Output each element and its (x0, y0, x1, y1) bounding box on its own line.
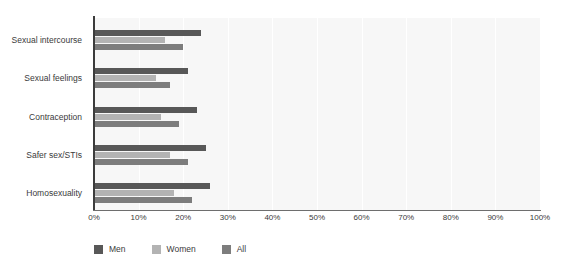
x-tick-label: 30% (220, 213, 236, 222)
bar-women (94, 75, 156, 81)
bar-group (94, 182, 540, 212)
bar-group (94, 67, 540, 97)
category-label: Homosexuality (26, 188, 82, 198)
x-tick-label: 80% (443, 213, 459, 222)
x-tick-label: 70% (398, 213, 414, 222)
bar-group (94, 106, 540, 136)
legend-item-all[interactable]: All (222, 244, 246, 254)
x-tick-label: 90% (487, 213, 503, 222)
legend-swatch-icon (222, 245, 231, 254)
legend-swatch-icon (94, 245, 103, 254)
bar-men (94, 107, 197, 113)
category-axis-labels: Sexual intercourseSexual feelingsContrac… (0, 18, 88, 210)
bar-women (94, 114, 161, 120)
bar-all (94, 44, 183, 50)
category-label: Sexual feelings (24, 73, 82, 83)
bar-men (94, 68, 188, 74)
category-label: Safer sex/STIs (26, 150, 82, 160)
bar-chart: Sexual intercourseSexual feelingsContrac… (0, 0, 573, 266)
chart-legend: MenWomenAll (94, 242, 272, 256)
x-tick-label: 60% (354, 213, 370, 222)
x-axis-tick-labels: 0%10%20%30%40%50%60%70%80%90%100% (0, 213, 573, 227)
bar-men (94, 30, 201, 36)
x-tick-label: 0% (88, 213, 100, 222)
legend-item-men[interactable]: Men (94, 244, 126, 254)
x-tick-label: 100% (530, 213, 550, 222)
bar-men (94, 183, 210, 189)
legend-item-women[interactable]: Women (152, 244, 196, 254)
plot-area (94, 18, 540, 210)
x-axis-line (93, 210, 541, 211)
x-tick-label: 40% (264, 213, 280, 222)
bar-all (94, 82, 170, 88)
x-tick-label: 20% (175, 213, 191, 222)
bar-women (94, 190, 174, 196)
bar-women (94, 152, 170, 158)
category-label: Contraception (29, 112, 82, 122)
bar-group (94, 144, 540, 174)
gridline (540, 18, 541, 210)
legend-label: Men (109, 244, 126, 254)
bar-men (94, 145, 206, 151)
legend-label: All (237, 244, 246, 254)
x-tick-label: 10% (131, 213, 147, 222)
bar-all (94, 197, 192, 203)
bar-all (94, 159, 188, 165)
bar-group (94, 29, 540, 59)
legend-swatch-icon (152, 245, 161, 254)
x-tick-label: 50% (309, 213, 325, 222)
bar-all (94, 121, 179, 127)
y-axis-line (93, 16, 95, 211)
legend-label: Women (167, 244, 196, 254)
bar-women (94, 37, 165, 43)
category-label: Sexual intercourse (12, 35, 82, 45)
